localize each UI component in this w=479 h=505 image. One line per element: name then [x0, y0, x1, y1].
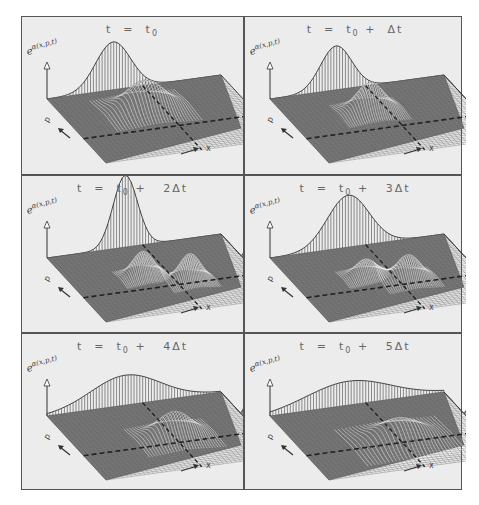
title-suffix: + 5Δt — [352, 340, 410, 353]
p-axis-label: p — [264, 432, 274, 441]
title-sub: 0 — [123, 188, 130, 197]
vertical-axis-arrow-icon — [267, 221, 273, 258]
x-axis-label: x — [206, 303, 211, 312]
title-t: t — [77, 340, 83, 353]
p-axis-label: p — [42, 274, 52, 283]
x-axis-label: x — [429, 461, 434, 470]
title-suffix: + 4Δt — [130, 340, 188, 353]
p-axis-arrow-icon — [58, 287, 70, 297]
panel-title: t = t0 — [22, 23, 243, 38]
panel-title: t = t0 + 3Δt — [245, 182, 466, 197]
title-suffix: + Δt — [360, 23, 404, 36]
title-sub: 0 — [123, 346, 130, 355]
vertical-axis-arrow-icon — [44, 379, 50, 416]
x-axis-label: x — [429, 303, 434, 312]
x-axis-label: x — [206, 461, 211, 470]
panel-title: t = t0 + 2Δt — [22, 182, 243, 197]
vertical-axis-arrow-icon — [44, 221, 50, 258]
x-axis-label: x — [429, 144, 434, 153]
panel-t2: pxt = t0 + 2Δteα(x,p,t) — [22, 176, 243, 333]
vertical-axis-arrow-icon — [44, 62, 50, 99]
title-suffix: + 3Δt — [352, 182, 410, 195]
panel-t5: pxt = t0 + 5Δteα(x,p,t) — [245, 334, 466, 491]
figure-frame: pxt = t0eα(x,p,t)pxt = t0 + Δteα(x,p,t)p… — [21, 16, 462, 490]
vertical-axis-arrow-icon — [267, 379, 273, 416]
panel-t0: pxt = t0eα(x,p,t) — [22, 17, 243, 174]
title-t: t — [106, 23, 112, 36]
panel-t3: pxt = t0 + 3Δteα(x,p,t) — [245, 176, 466, 333]
panel-title: t = t0 + Δt — [245, 23, 466, 38]
p-axis-label: p — [42, 432, 52, 441]
p-axis-arrow-icon — [58, 128, 70, 138]
title-t: t — [299, 340, 305, 353]
p-axis-arrow-icon — [58, 445, 70, 455]
title-eq: = — [89, 182, 111, 195]
panel-t4: pxt = t0 + 4Δteα(x,p,t) — [22, 334, 243, 491]
p-axis-label: p — [264, 115, 274, 124]
title-eq: = — [311, 182, 333, 195]
panel-title: t = t0 + 5Δt — [245, 340, 466, 355]
vertical-axis-arrow-icon — [267, 62, 273, 99]
panel-t1: pxt = t0 + Δteα(x,p,t) — [245, 17, 466, 174]
title-eq: = — [118, 23, 140, 36]
title-t: t — [299, 182, 305, 195]
p-axis-label: p — [264, 274, 274, 283]
p-axis-arrow-icon — [281, 128, 293, 138]
p-axis-arrow-icon — [281, 287, 293, 297]
p-axis-arrow-icon — [281, 445, 293, 455]
title-suffix: + 2Δt — [130, 182, 188, 195]
title-t: t — [77, 182, 83, 195]
title-t: t — [307, 23, 313, 36]
p-axis-label: p — [42, 115, 52, 124]
title-eq: = — [319, 23, 341, 36]
title-sub: 0 — [353, 29, 360, 38]
title-eq: = — [89, 340, 111, 353]
x-axis-label: x — [206, 144, 211, 153]
title-eq: = — [311, 340, 333, 353]
panel-title: t = t0 + 4Δt — [22, 340, 243, 355]
title-sub: 0 — [152, 29, 159, 38]
